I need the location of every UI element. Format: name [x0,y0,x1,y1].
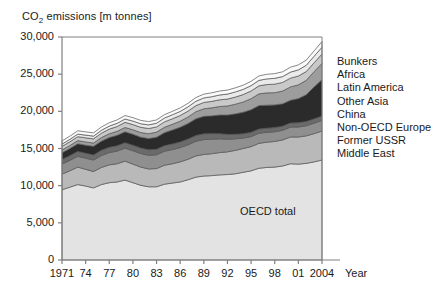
legend-label-china: China [337,109,366,120]
legend-label-bunkers: Bunkers [337,56,377,67]
legend-label-other-asia: Other Asia [337,96,388,107]
y-tick-label: 30,000 [8,30,54,42]
x-tick-label: 2004 [302,267,342,279]
y-tick-label: 10,000 [8,179,54,191]
y-tick-label: 5,000 [8,216,54,228]
legend-label-former-ussr: Former USSR [337,135,406,146]
legend-label-latin-america: Latin America [337,82,404,93]
y-tick-label: 15,000 [8,142,54,154]
y-tick-label: 20,000 [8,104,54,116]
legend-label-middle-east: Middle East [337,148,394,159]
inline-label-oecd-total: OECD total [240,205,296,217]
y-tick-label: 0 [8,253,54,265]
legend-label-africa: Africa [337,69,365,80]
y-tick-label: 25,000 [8,67,54,79]
chart-container: CO2 emissions [m tonnes] 30,00025,00020,… [0,0,447,293]
x-axis-title: Year [345,267,367,279]
legend-label-non-oecd-europe: Non-OECD Europe [337,122,431,133]
